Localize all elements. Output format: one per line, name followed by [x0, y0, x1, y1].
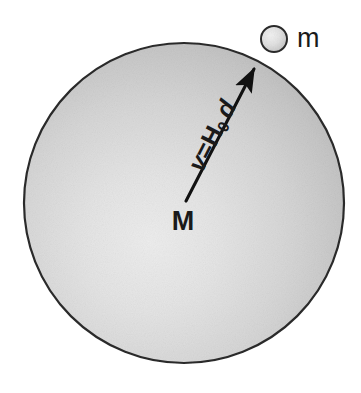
hubble-law-diagram: v=H0d M m — [0, 0, 361, 393]
small-sphere — [261, 26, 287, 52]
large-sphere-label: M — [172, 206, 195, 236]
figure-container: v=H0d M m — [0, 0, 361, 393]
small-sphere-label: m — [297, 23, 320, 53]
large-sphere — [24, 43, 344, 363]
large-sphere-body — [24, 43, 344, 363]
small-sphere-body — [261, 26, 287, 52]
